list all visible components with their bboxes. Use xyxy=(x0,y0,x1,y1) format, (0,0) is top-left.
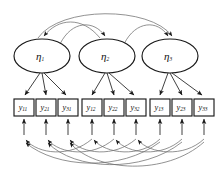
latent-node-eta1[interactable]: η1 xyxy=(14,39,70,73)
observed-node-y22[interactable]: y22 xyxy=(104,99,124,116)
observed-node-y12[interactable]: y12 xyxy=(82,99,102,116)
observed-nodes: y11 y21 y31 y12 xyxy=(14,99,214,116)
loading-arrow-group xyxy=(25,73,202,95)
loading-eta1-y11 xyxy=(25,73,40,95)
observed-node-y13[interactable]: y13 xyxy=(150,99,170,116)
observed-node-y21[interactable]: y21 xyxy=(36,99,56,116)
observed-node-y32[interactable]: y32 xyxy=(126,99,146,116)
observed-node-y11[interactable]: y11 xyxy=(14,99,34,116)
observed-node-y31[interactable]: y31 xyxy=(58,99,78,116)
loading-eta2-y12 xyxy=(92,73,105,95)
corr-y13-y11 xyxy=(26,142,160,163)
observed-node-y23[interactable]: y23 xyxy=(172,99,192,116)
loading-eta3-y13 xyxy=(160,73,168,95)
residual-arrow-group xyxy=(24,119,204,135)
loading-eta1-y31 xyxy=(44,73,66,95)
latent-nodes: η1 η2 η3 xyxy=(14,39,198,73)
corr-y22-y21 xyxy=(48,139,114,152)
correlated-residual-group xyxy=(26,139,204,166)
path-eta1-to-eta3 xyxy=(38,14,172,38)
corr-y23-y22 xyxy=(116,139,182,152)
latent-node-eta3[interactable]: η3 xyxy=(142,39,198,73)
diagram-canvas: η1 η2 η3 xyxy=(0,0,215,179)
loading-eta1-y21 xyxy=(42,73,46,95)
corr-y32-y31 xyxy=(70,139,136,152)
observed-node-y33[interactable]: y33 xyxy=(194,99,214,116)
sem-path-diagram: η1 η2 η3 xyxy=(0,0,215,179)
latent-node-eta2[interactable]: η2 xyxy=(79,39,135,73)
path-eta2-to-eta1 xyxy=(44,22,100,38)
